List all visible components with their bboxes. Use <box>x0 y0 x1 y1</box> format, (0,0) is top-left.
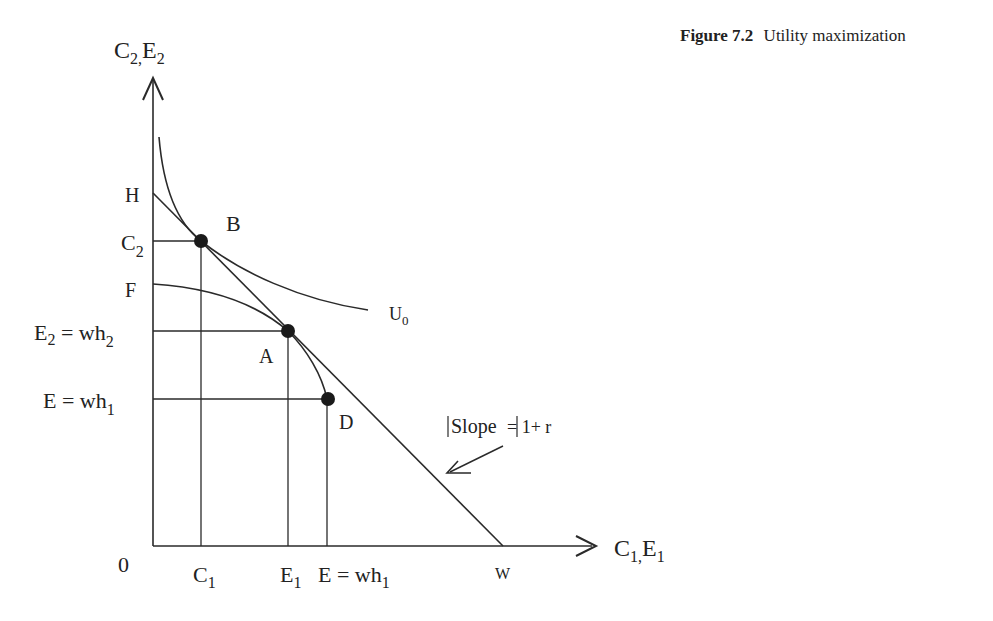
indifference-curve-u0 <box>159 137 368 310</box>
x-axis-label: C1,E1 <box>614 535 665 565</box>
x-label-e1: E1 <box>280 562 301 591</box>
point-a-label: A <box>259 345 274 367</box>
utility-maximization-diagram: C2,E2 C1,E1 0 H C2 F E2 = wh2 E = wh1 C1… <box>0 0 993 621</box>
y-axis-label: C2,E2 <box>114 37 165 67</box>
slope-arrow-shaft <box>450 446 503 472</box>
y-label-e: E = wh1 <box>43 388 115 418</box>
point-b-marker <box>194 234 208 248</box>
x-label-w: W <box>495 565 511 582</box>
point-d-label: D <box>339 411 353 433</box>
origin-label: 0 <box>118 552 129 577</box>
y-label-e2: E2 = wh2 <box>34 320 114 350</box>
y-label-f: F <box>125 279 136 301</box>
x-label-e: E = wh1 <box>318 562 390 591</box>
point-b-label: B <box>226 211 241 236</box>
slope-annotation: Slope = 1+ r <box>451 415 551 438</box>
point-d-marker <box>321 392 335 406</box>
y-label-c2: C2 <box>121 230 144 260</box>
y-label-h: H <box>125 184 139 206</box>
u0-label: U0 <box>389 304 409 328</box>
point-a-marker <box>281 324 295 338</box>
x-label-c1: C1 <box>193 562 216 591</box>
